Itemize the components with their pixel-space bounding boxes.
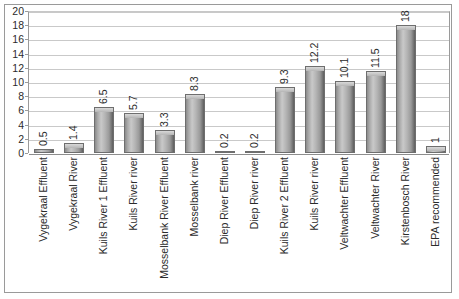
x-label-slot: EPA recommended xyxy=(420,155,450,291)
bar-value-label: 0.2 xyxy=(219,133,230,148)
y-axis-tick-label: 14 xyxy=(12,49,24,59)
bar-slot: 1 xyxy=(421,12,451,153)
x-label-slot: Veltwachter River xyxy=(360,155,390,291)
bar-value-label: 0.2 xyxy=(249,133,260,148)
bar-highlight xyxy=(65,144,83,148)
bar-slot: 6.5 xyxy=(89,12,119,153)
bar-slot: 0.2 xyxy=(210,12,240,153)
x-axis-category-label: EPA recommended xyxy=(429,157,440,247)
y-axis-tick-label: 2 xyxy=(18,134,24,144)
x-axis-category-label: Kuils River 2 Effluent xyxy=(279,157,290,254)
bar-slot: 0.2 xyxy=(240,12,270,153)
bar[interactable]: 0.5 xyxy=(34,149,54,153)
x-label-slot: Kirstenbosch River xyxy=(390,155,420,291)
y-axis-tick-label: 10 xyxy=(12,77,24,87)
bar-highlight xyxy=(156,131,174,135)
x-axis-category-label: Kuils River river xyxy=(309,157,320,231)
x-axis-category-label: Kuils River river xyxy=(128,157,139,231)
bar-highlight xyxy=(367,72,385,76)
x-label-slot: Veltwachter Effluent xyxy=(329,155,359,291)
bar-slot: 10.1 xyxy=(330,12,360,153)
x-axis-category-label: Vygekraal River xyxy=(68,157,79,231)
x-axis-category-label: Veltwachter Effluent xyxy=(339,157,350,250)
y-axis-tick-label: 8 xyxy=(18,91,24,101)
bar-highlight xyxy=(306,67,324,71)
bar-slot: 12.2 xyxy=(300,12,330,153)
bar-slot: 0.5 xyxy=(29,12,59,153)
bar[interactable]: 1.4 xyxy=(64,143,84,153)
bar-value-label: 0.5 xyxy=(38,132,49,147)
x-axis-category-label: Kuils River 1 Effluent xyxy=(98,157,109,254)
x-label-slot: Vygekraal River xyxy=(58,155,88,291)
bar-highlight xyxy=(95,108,113,112)
bar[interactable]: 8.3 xyxy=(185,94,205,153)
bar-value-label: 12.2 xyxy=(309,43,320,63)
x-axis-category-label: Vygekraal Effluent xyxy=(38,157,49,242)
y-axis-tick-label: 20 xyxy=(12,6,24,16)
x-axis-category-label: Mosselbank river xyxy=(188,157,199,236)
x-label-slot: Kuils River river xyxy=(118,155,148,291)
x-axis-category-label: Veltwachter River xyxy=(369,157,380,239)
bar-value-label: 1.4 xyxy=(68,125,79,140)
bar[interactable]: 12.2 xyxy=(305,66,325,153)
x-label-slot: Mosselbank river xyxy=(179,155,209,291)
bar-value-label: 1 xyxy=(430,137,441,143)
bar[interactable]: 11.5 xyxy=(366,71,386,153)
bar[interactable]: 9.3 xyxy=(275,87,295,153)
bar-highlight xyxy=(125,114,143,118)
bar-value-label: 11.5 xyxy=(370,49,381,69)
x-axis-labels: Vygekraal EffluentVygekraal RiverKuils R… xyxy=(28,155,450,291)
bar-highlight xyxy=(186,95,204,99)
y-axis-tick-mark xyxy=(25,153,28,154)
y-axis-tick-label: 16 xyxy=(12,34,24,44)
x-axis-category-label: Kirstenbosch River xyxy=(399,157,410,245)
x-label-slot: Diep River river xyxy=(239,155,269,291)
bar[interactable]: 3.3 xyxy=(155,130,175,153)
y-axis-tick-label: 12 xyxy=(12,63,24,73)
bar-slot: 1.4 xyxy=(59,12,89,153)
x-label-slot: Diep River Effluent xyxy=(209,155,239,291)
bar-value-label: 6.5 xyxy=(98,89,109,104)
y-axis: 20181614121086420 xyxy=(5,11,28,153)
bar-slot: 9.3 xyxy=(270,12,300,153)
y-axis-tick-label: 4 xyxy=(18,120,24,130)
x-label-slot: Kuils River 1 Effluent xyxy=(88,155,118,291)
bar-value-label: 8.3 xyxy=(189,76,200,91)
bar-highlight xyxy=(336,82,354,86)
bars-layer: 0.51.46.55.73.38.30.20.29.312.210.111.51… xyxy=(29,12,449,153)
bar[interactable]: 10.1 xyxy=(335,81,355,153)
bar-highlight xyxy=(397,26,415,30)
x-axis-category-label: Diep River river xyxy=(249,157,260,229)
bar-slot: 3.3 xyxy=(150,12,180,153)
bar[interactable]: 6.5 xyxy=(94,107,114,153)
bar-value-label: 9.3 xyxy=(279,69,290,84)
bar-slot: 11.5 xyxy=(361,12,391,153)
bar-value-label: 3.3 xyxy=(159,112,170,127)
y-axis-tick-label: 18 xyxy=(12,20,24,30)
bar[interactable]: 1 xyxy=(426,146,446,153)
bar[interactable]: 5.7 xyxy=(124,113,144,153)
x-axis-category-label: Diep River Effluent xyxy=(218,157,229,244)
x-label-slot: Mosselbank River Effluent xyxy=(149,155,179,291)
plot-area: 0.51.46.55.73.38.30.20.29.312.210.111.51… xyxy=(28,11,450,153)
bar[interactable]: 0.2 xyxy=(245,151,265,153)
x-label-slot: Kuils River river xyxy=(299,155,329,291)
bar-value-label: 10.1 xyxy=(339,58,350,78)
bar-value-label: 18 xyxy=(400,11,411,23)
x-label-slot: Vygekraal Effluent xyxy=(28,155,58,291)
bar-value-label: 5.7 xyxy=(128,95,139,110)
bar-highlight xyxy=(276,88,294,92)
bar-highlight xyxy=(427,147,445,151)
bar-slot: 5.7 xyxy=(119,12,149,153)
x-label-slot: Kuils River 2 Effluent xyxy=(269,155,299,291)
y-axis-tick-label: 6 xyxy=(18,105,24,115)
x-axis-category-label: Mosselbank River Effluent xyxy=(158,157,169,279)
bar[interactable]: 0.2 xyxy=(215,151,235,153)
bar[interactable]: 18 xyxy=(396,25,416,153)
bar-slot: 18 xyxy=(391,12,421,153)
chart-figure: 20181614121086420 0.51.46.55.73.38.30.20… xyxy=(4,4,452,293)
bar-slot: 8.3 xyxy=(180,12,210,153)
y-axis-tick-label: 0 xyxy=(18,148,24,158)
